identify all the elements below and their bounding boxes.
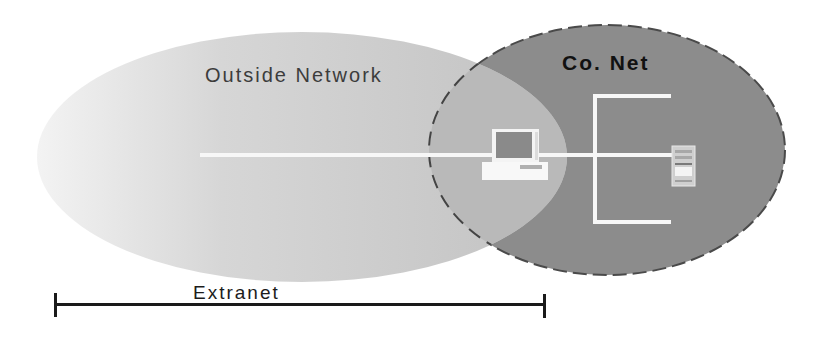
company-network-label: Co. Net: [562, 51, 650, 74]
bracket-vertical: [593, 94, 597, 224]
extranet-diagram: Outside Network Co. Net Extranet: [0, 0, 823, 346]
extranet-label: Extranet: [193, 282, 280, 303]
span-right-tick: [543, 294, 546, 318]
outside-network-label: Outside Network: [205, 64, 383, 86]
extranet-span: Extranet: [54, 282, 546, 318]
span-line: [55, 303, 546, 306]
span-left-tick: [54, 293, 57, 317]
server-tower-icon: [672, 146, 695, 186]
bracket-top: [593, 94, 671, 98]
bracket-bottom: [593, 220, 671, 224]
backbone-link: [200, 153, 672, 157]
